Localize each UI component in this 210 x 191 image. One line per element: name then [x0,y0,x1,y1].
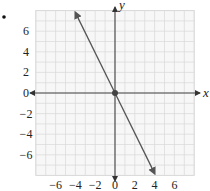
x-tick-label: 0 [112,178,118,191]
y-tick-label: 6 [23,24,29,38]
origin-point [112,90,118,96]
y-tick-label: 0 [23,86,29,100]
y-tick-label: −4 [20,127,33,141]
y-axis-label: y [117,0,125,12]
x-tick-label: −6 [49,178,62,191]
x-tick-label: −2 [89,178,102,191]
y-tick-label: −6 [20,148,33,162]
x-tick-label: 2 [132,178,138,191]
bullet-dot [2,15,6,19]
y-tick-label: 2 [23,65,29,79]
x-axis-label: x [202,85,209,100]
x-tick-label: 6 [171,178,177,191]
x-tick-label: 4 [152,178,158,191]
y-tick-label: −2 [20,107,33,121]
x-tick-label: −4 [69,178,82,191]
y-tick-label: 4 [23,45,29,59]
coordinate-plane-chart: 6420−2−4−6−6−4−20246 x y [0,0,210,191]
